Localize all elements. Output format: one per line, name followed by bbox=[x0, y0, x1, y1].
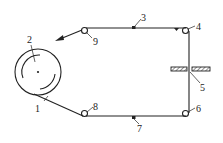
drum-inner-arc-bottom bbox=[40, 74, 55, 89]
label-2: 2 bbox=[27, 34, 32, 45]
label-5: 5 bbox=[200, 82, 205, 93]
label-6: 6 bbox=[196, 103, 201, 114]
label-1: 1 bbox=[35, 103, 40, 114]
arrow-icon bbox=[55, 35, 64, 41]
leader-2 bbox=[31, 45, 35, 62]
label-4: 4 bbox=[196, 21, 201, 32]
guide-near-4 bbox=[174, 28, 179, 31]
label-3: 3 bbox=[141, 12, 146, 23]
roller-9 bbox=[82, 28, 88, 34]
plate-5-left bbox=[171, 67, 187, 71]
drum-inner-arc-top bbox=[22, 55, 40, 78]
label-8: 8 bbox=[93, 101, 98, 112]
leader-4 bbox=[188, 26, 195, 29]
transport-diagram: 2 9 3 4 5 6 7 8 1 bbox=[0, 0, 223, 143]
drum-center-dot bbox=[37, 71, 39, 73]
guide-3 bbox=[132, 26, 136, 29]
belt-segment-lower-left bbox=[34, 94, 83, 116]
leader-9 bbox=[87, 33, 92, 38]
label-7: 7 bbox=[137, 123, 142, 134]
guide-7 bbox=[132, 116, 136, 119]
label-9: 9 bbox=[93, 36, 98, 47]
leader-5 bbox=[190, 72, 200, 83]
plate-5-right bbox=[192, 67, 210, 71]
roller-8 bbox=[82, 111, 88, 117]
drum bbox=[15, 45, 61, 95]
